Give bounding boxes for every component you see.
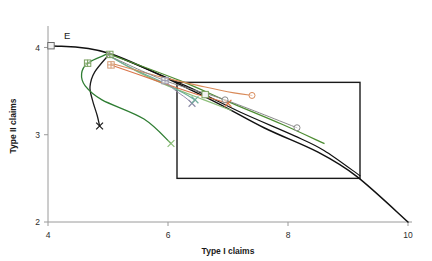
series-frontier-black-inner <box>110 54 360 176</box>
marker-marker-sq-green <box>202 91 208 97</box>
square-glyph <box>48 43 54 49</box>
circle-glyph <box>222 97 228 103</box>
series-curve-teal <box>110 56 195 100</box>
marker-marker-x-green <box>168 140 175 147</box>
y-tick-label: 4 <box>35 43 40 53</box>
x-tick-label: 6 <box>166 230 171 240</box>
x-tick-label: 4 <box>46 230 51 240</box>
chart-container: 23446810Type I claimsType II claimsE <box>0 0 432 261</box>
marker-marker-node-green2 <box>84 60 91 67</box>
marker-marker-node-green <box>106 51 113 58</box>
marker-marker-circ-gray2 <box>294 125 300 131</box>
marker-marker-E-square <box>48 43 54 49</box>
square-glyph <box>202 91 208 97</box>
y-tick-label: 2 <box>35 217 40 227</box>
chart-plot: 23446810Type I claimsType II claimsE <box>0 0 432 261</box>
x-tick-label: 8 <box>286 230 291 240</box>
circle-glyph <box>294 125 300 131</box>
series-curve-green-mid <box>110 54 324 143</box>
y-axis-title: Type II claims <box>8 98 18 153</box>
series-frontier-black <box>51 46 408 222</box>
marker-marker-mid-gray <box>162 77 169 84</box>
circle-glyph <box>249 92 255 98</box>
marker-marker-x-teal <box>192 96 199 103</box>
series-curve-black-hook <box>90 54 110 126</box>
x-tick-label: 10 <box>403 230 413 240</box>
marker-marker-circ-orange <box>249 92 255 98</box>
marker-marker-node-tan <box>108 62 115 69</box>
annotation-point-E: E <box>64 30 70 41</box>
y-tick-label: 3 <box>35 130 40 140</box>
marker-marker-circ-gray1 <box>222 97 228 103</box>
x-axis-title: Type I claims <box>202 246 255 256</box>
